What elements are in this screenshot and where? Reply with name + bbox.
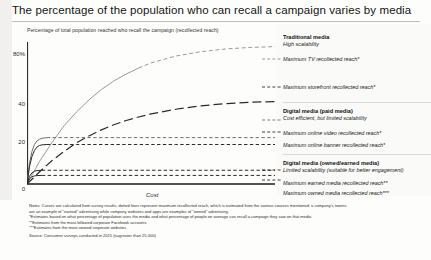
legend-item-label: Maximum online video recollected reach* [283, 130, 381, 136]
legend-group-owned-earned: Digital media (owned/earned media) Limit… [283, 160, 431, 173]
legend-item-label: Maximum earned media recollected reach** [283, 180, 388, 186]
page-title: The percentage of the population who can… [12, 4, 422, 16]
legend-group-heading: Traditional media [283, 34, 431, 40]
legend-divider-1 [283, 102, 431, 103]
left-margin-band [0, 0, 12, 200]
legend-item-label: Maximum TV recollected reach* [283, 56, 359, 62]
x-axis-label: Cost [146, 192, 158, 198]
legend-group-paid: Digital media (paid media) Cost efficien… [283, 108, 431, 121]
source-line: Source: Consumer surveys conducted in 20… [29, 233, 429, 239]
note-line: ***Estimates from the most-viewed corpor… [29, 225, 429, 231]
legend-item-label: Maximum online banner recollected reach* [283, 142, 385, 148]
legend-group-heading: Digital media (owned/earned media) [283, 160, 431, 166]
y-tick-0: 0 [3, 186, 25, 192]
legend-group-traditional: Traditional media High scalability [283, 34, 431, 47]
title-divider [12, 21, 420, 22]
legend-item-label: Maximum storefront recollected reach* [283, 84, 375, 90]
chart-page: The percentage of the population who can… [0, 0, 431, 260]
chart-svg [27, 38, 275, 192]
y-tick-80: 80% [3, 51, 25, 57]
legend-group-subheading: High scalability [283, 41, 431, 47]
y-axis-caption: Percentage of total population reached w… [27, 27, 219, 33]
legend-group-subheading: Cost efficient, but limited scalability [283, 115, 431, 121]
y-tick-40: 40 [3, 101, 25, 107]
legend-group-heading: Digital media (paid media) [283, 108, 431, 114]
footnotes: Notes: Curves are calculated from survey… [29, 203, 429, 239]
chart-plot-area [27, 38, 275, 192]
legend-group-subheading: Limited scalability (suitable for better… [283, 167, 431, 173]
legend-divider-2 [283, 154, 431, 155]
y-tick-20: 20 [3, 139, 25, 145]
legend-item-label: Maximum owned media recollected reach*** [283, 190, 389, 196]
